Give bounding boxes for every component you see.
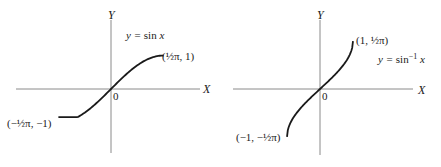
equation-func: sin xyxy=(144,29,157,41)
equation-superscript: −1 xyxy=(409,52,418,61)
equation-suffix: x xyxy=(157,29,165,41)
endpoint-upper-label: (1, ½π) xyxy=(356,34,388,47)
equation-func: sin xyxy=(396,53,409,65)
endpoint-upper-label: (½π, 1) xyxy=(162,50,194,63)
endpoint-lower-label: (−½π, −1) xyxy=(7,117,52,130)
y-axis-label: Y xyxy=(317,8,325,22)
equation-label: y = sin x xyxy=(125,29,164,41)
endpoint-lower-label: (−1, −½π) xyxy=(236,131,281,144)
panel-sine: X Y 0 y = sin x (½π, 1) (−½π, −1) xyxy=(7,8,211,153)
equation-label: y = sin−1 x xyxy=(377,52,425,65)
origin-label: 0 xyxy=(113,90,119,102)
figure: X Y 0 y = sin x (½π, 1) (−½π, −1) X Y 0 … xyxy=(0,0,441,167)
equation-prefix: y = xyxy=(125,29,144,41)
equation-suffix: x xyxy=(417,53,425,65)
x-axis-label: X xyxy=(417,83,426,97)
equation-prefix: y = xyxy=(377,53,396,65)
origin-label: 0 xyxy=(322,90,328,102)
x-axis-label: X xyxy=(202,82,211,96)
panel-arcsine: X Y 0 y = sin−1 x (1, ½π) (−1, −½π) xyxy=(233,8,426,155)
y-axis-label: Y xyxy=(108,8,116,22)
